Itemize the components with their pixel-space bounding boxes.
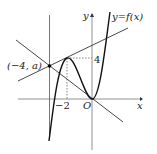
point-label: (−4, a) — [7, 61, 42, 71]
y-axis-arrow-icon — [90, 13, 94, 17]
x-axis-label: x — [137, 101, 143, 111]
tick-x-label: −2 — [55, 101, 70, 111]
graph-canvas — [0, 0, 157, 154]
cubic-curve — [49, 12, 110, 141]
math-diagram: y y=f(x) x 4 −2 O (−4, a) — [0, 0, 157, 154]
tick-y-label: 4 — [94, 55, 100, 65]
curve-label: y=f(x) — [112, 12, 143, 22]
origin-label: O — [83, 101, 91, 111]
y-axis-label: y — [83, 11, 89, 21]
point-minus4-a — [48, 64, 52, 68]
